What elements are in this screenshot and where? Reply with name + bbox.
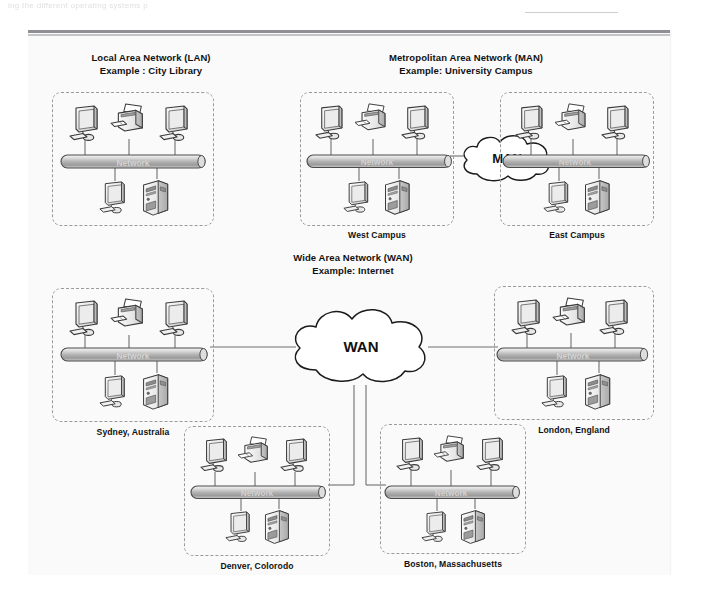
heading-wan: Wide Area Network (WAN) Example: Interne… [258,252,448,277]
network-bus-bar[interactable]: Network [307,155,451,168]
scan-horizontal-rule [525,12,618,13]
computer-workstation[interactable] [344,182,368,212]
cloud-wan[interactable]: WAN [286,302,436,388]
zone-caption-wan-denver: Denver, Colorodo [185,561,329,571]
zone-man-east[interactable]: Network East Campus [500,92,654,226]
heading-man-line1: Metropolitan Area Network (MAN) [389,52,543,63]
bus-label: Network [435,489,468,498]
server-tower[interactable] [586,181,610,215]
computer-workstation[interactable] [160,301,187,335]
wan-sydney-diagram: Network [53,289,213,421]
man-west-diagram: Network [301,93,453,225]
wan-denver-diagram: Network [185,427,329,555]
bus-label: Network [559,158,592,167]
computer-workstation[interactable] [100,182,124,213]
computer-workstation[interactable] [316,106,342,139]
network-printer[interactable] [355,104,385,130]
bus-label: Network [361,158,394,167]
zone-wan-denver[interactable]: Network Denver, Colorodo [184,426,330,556]
panel-top-bar-light [28,34,672,36]
computer-workstation[interactable] [281,439,306,471]
network-printer[interactable] [111,104,142,131]
network-printer[interactable] [238,437,267,462]
zone-man-west[interactable]: Network West Campus [300,92,454,226]
computer-workstation[interactable] [477,438,502,470]
lan-library-diagram: Network [53,93,213,225]
page-root: ing the different operating systems p [0,0,708,603]
network-bus-bar[interactable]: Network [61,155,205,168]
server-tower[interactable] [144,181,168,215]
heading-lan-line1: Local Area Network (LAN) [91,52,210,63]
figure-panel: Local Area Network (LAN) Example : City … [28,30,672,575]
computer-workstation[interactable] [402,106,428,139]
wan-london-diagram: Network [495,287,653,419]
heading-man-line2: Example: University Campus [356,65,576,78]
heading-lan: Local Area Network (LAN) Example : City … [56,52,246,77]
computer-workstation[interactable] [544,182,568,212]
heading-wan-line2: Example: Internet [258,265,448,278]
computer-workstation[interactable] [201,439,226,471]
cloud-wan-label: WAN [344,338,379,355]
server-tower[interactable] [461,511,484,544]
computer-workstation[interactable] [226,512,249,542]
computer-workstation[interactable] [70,301,97,335]
computer-workstation[interactable] [512,300,539,334]
man-east-diagram: Network [501,93,653,225]
computer-workstation[interactable] [100,376,124,407]
zone-wan-boston[interactable]: Network Boston, Massachusetts [380,424,526,554]
heading-lan-line2: Example : City Library [56,65,246,78]
zone-wan-sydney[interactable]: Network Sydney, Australia [52,288,214,422]
bus-label: Network [556,351,589,361]
network-bus-bar[interactable]: Network [503,155,649,168]
computer-workstation[interactable] [600,300,627,334]
scan-artifact-text: ing the different operating systems p [8,1,368,10]
server-tower[interactable] [386,181,410,215]
server-tower[interactable] [144,375,168,409]
zone-caption-man-east: East Campus [501,230,653,240]
zone-caption-man-west: West Campus [301,230,453,240]
network-printer[interactable] [555,104,585,130]
computer-workstation[interactable] [70,106,97,140]
panel-top-bar-dark [28,30,672,33]
wan-boston-diagram: Network [381,425,525,553]
bus-label: Network [116,351,149,361]
computer-workstation[interactable] [516,106,542,139]
computer-workstation[interactable] [160,106,187,140]
network-printer[interactable] [111,299,142,326]
zone-wan-london[interactable]: Network London, England [494,286,654,420]
computer-workstation[interactable] [602,106,628,139]
zone-caption-wan-boston: Boston, Massachusetts [381,559,525,569]
network-bus-bar[interactable]: Network [61,348,207,361]
computer-workstation[interactable] [422,512,445,542]
network-printer[interactable] [434,436,463,461]
bus-label: Network [241,489,274,498]
zone-lan-library[interactable]: Network [52,92,214,226]
panel-right-edge [670,30,672,575]
server-tower[interactable] [265,511,288,544]
network-printer[interactable] [553,298,584,325]
heading-man: Metropolitan Area Network (MAN) Example:… [356,52,576,77]
bus-label: Network [116,158,149,168]
server-tower[interactable] [586,375,610,409]
computer-workstation[interactable] [542,376,566,407]
network-bus-bar[interactable]: Network [497,348,648,361]
heading-wan-line1: Wide Area Network (WAN) [293,252,413,263]
network-bus-bar[interactable]: Network [191,486,325,499]
computer-workstation[interactable] [397,438,422,470]
network-bus-bar[interactable]: Network [385,486,519,499]
